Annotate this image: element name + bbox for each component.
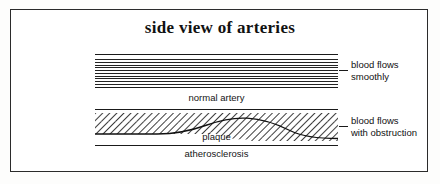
atherosclerosis-caption: atherosclerosis: [95, 148, 338, 159]
diseased-artery-wall-bottom: [95, 145, 338, 146]
plaque-hatched-region: [95, 113, 338, 142]
normal-artery-wall-top: [95, 54, 338, 55]
blood-flow-line: [95, 84, 338, 85]
blood-flow-line: [95, 73, 338, 74]
leader-line-icon: [339, 70, 348, 71]
blood-flow-line: [95, 70, 338, 71]
blood-flow-line: [95, 67, 338, 68]
callout-blood-flows-with-obstruction: blood flows with obstruction: [339, 115, 417, 138]
page-title: side view of arteries: [0, 18, 440, 38]
normal-artery-wall-bottom: [95, 87, 338, 88]
smooth-blood-flow-lines: [95, 59, 338, 84]
callout-smooth-text: blood flows smoothly: [351, 59, 399, 82]
callout-obstruction-line1: blood flows: [351, 115, 399, 126]
callout-smooth-line2: smoothly: [351, 71, 389, 82]
blood-flow-line: [95, 81, 338, 82]
blood-flow-line: [95, 76, 338, 77]
diseased-artery-wall-top: [95, 109, 338, 110]
callout-obstruction-line2: with obstruction: [351, 127, 417, 138]
blood-flow-line: [95, 59, 338, 60]
callout-blood-flows-smoothly: blood flows smoothly: [339, 59, 399, 82]
normal-artery-diagram: [95, 54, 338, 89]
normal-artery-caption: normal artery: [95, 92, 338, 103]
callout-smooth-line1: blood flows: [351, 59, 399, 70]
leader-line-icon: [339, 126, 348, 127]
figure-canvas: side view of arteries normal artery bloo…: [0, 0, 440, 184]
callout-obstruction-text: blood flows with obstruction: [351, 115, 417, 138]
blood-flow-line: [95, 65, 338, 66]
blood-flow-line: [95, 62, 338, 63]
blood-flow-line: [95, 78, 338, 79]
atherosclerotic-artery-diagram: plaque: [95, 109, 338, 147]
